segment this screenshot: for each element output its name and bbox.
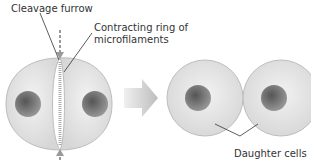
transition-arrow: [124, 79, 158, 117]
cleavage-furrow-label: Cleavage furrow: [11, 3, 93, 15]
nucleus-right: [82, 91, 108, 117]
daughter-cells-label: Daughter cells: [234, 148, 307, 160]
contracting-ring-label-line1: Contracting ring of: [94, 22, 188, 34]
daughter-cells: [167, 60, 311, 136]
nucleus-left: [15, 91, 41, 117]
contracting-ring-label-line2: microfilaments: [94, 34, 169, 46]
